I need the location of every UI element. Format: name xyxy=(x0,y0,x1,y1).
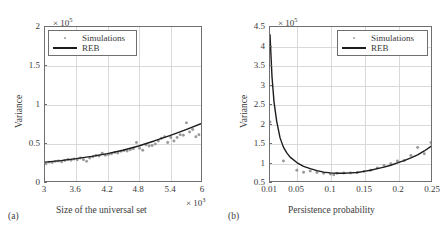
panel-b-ytick-label: 4.5 xyxy=(245,22,265,31)
panel-b-xtick-label: 0.1 xyxy=(319,185,341,194)
legend-entry-simulations: Simulations xyxy=(341,33,423,43)
panel-b-ytick-label: 1 xyxy=(245,159,265,168)
panel-b-ytick-mark xyxy=(269,143,272,144)
scatter-marker-icon xyxy=(341,33,367,43)
panel-a-ytick-mark xyxy=(44,104,47,105)
panel-a-ytick-mark xyxy=(44,26,47,27)
panel-a-x-exponent: × 103 xyxy=(186,196,206,208)
panel-a-caption: (a) xyxy=(8,211,19,221)
panel-b-yaxis-label: Variance xyxy=(239,95,249,128)
panel-b-xtick-label: 0.01 xyxy=(258,185,280,194)
panel-a-ytick-label: 1.5 xyxy=(20,61,40,70)
panel-b-ytick-mark xyxy=(269,104,272,105)
panel-b-ytick-label: 4 xyxy=(245,42,265,51)
legend-entry-simulations: Simulations xyxy=(52,33,132,43)
scatter-marker-icon xyxy=(52,33,78,43)
panel-a-xtick-label: 3.6 xyxy=(65,185,85,194)
legend-label: REB xyxy=(82,43,100,53)
legend-label: Simulations xyxy=(82,33,125,43)
panel-a-ytick-label: 2 xyxy=(20,22,40,31)
panel-a-legend: Simulations REB xyxy=(48,30,137,56)
legend-entry-reb: REB xyxy=(341,43,423,53)
panel-a: × 105 0 0.5 1 1.5 2 3 3.6 4.2 4.8 5.4 6 … xyxy=(0,0,221,232)
panel-b-xtick-label: 0.15 xyxy=(353,185,375,194)
panel-b-xaxis-label: Persistence probability xyxy=(288,205,375,215)
panel-a-xaxis-label: Size of the universal set xyxy=(56,205,147,215)
panel-a-xtick-label: 6 xyxy=(192,185,212,194)
panel-b-ytick-label: 3 xyxy=(245,81,265,90)
panel-b-xtick-label: 0.25 xyxy=(421,185,443,194)
panel-b-ytick-mark xyxy=(269,124,272,125)
panel-a-xtick-label: 3 xyxy=(34,185,54,194)
panel-b-ytick-mark xyxy=(269,46,272,47)
line-marker-icon xyxy=(52,43,78,53)
panel-b-ytick-mark xyxy=(269,85,272,86)
legend-label: REB xyxy=(371,43,389,53)
panel-a-yaxis-label: Variance xyxy=(14,95,24,128)
panel-b-ytick-mark xyxy=(269,26,272,27)
panel-b-ytick-label: 3.5 xyxy=(245,61,265,70)
panel-a-ytick-mark xyxy=(44,182,47,183)
panel-a-xtick-label: 4.2 xyxy=(97,185,117,194)
legend-entry-reb: REB xyxy=(52,43,132,53)
panel-b-legend: Simulations REB xyxy=(337,30,428,56)
panel-a-xtick-label: 4.8 xyxy=(128,185,148,194)
legend-label: Simulations xyxy=(371,33,414,43)
panel-b-ytick-mark xyxy=(269,182,272,183)
panel-b-caption: (b) xyxy=(228,211,239,221)
panel-b-xtick-label: 0.2 xyxy=(387,185,409,194)
panel-a-ytick-mark xyxy=(44,143,47,144)
panel-b-ytick-mark xyxy=(269,163,272,164)
panel-b-xtick-label: 0.05 xyxy=(285,185,307,194)
figure-container: × 105 0 0.5 1 1.5 2 3 3.6 4.2 4.8 5.4 6 … xyxy=(0,0,443,232)
panel-b-ytick-mark xyxy=(269,65,272,66)
panel-b: × 105 0.5 1 1.5 2 2.5 3 3.5 4 4.5 xyxy=(221,0,442,232)
panel-a-ytick-mark xyxy=(44,65,47,66)
line-marker-icon xyxy=(341,43,367,53)
panel-a-ytick-label: 0.5 xyxy=(20,139,40,148)
panel-b-ytick-label: 1.5 xyxy=(245,139,265,148)
panel-a-xtick-label: 5.4 xyxy=(160,185,180,194)
